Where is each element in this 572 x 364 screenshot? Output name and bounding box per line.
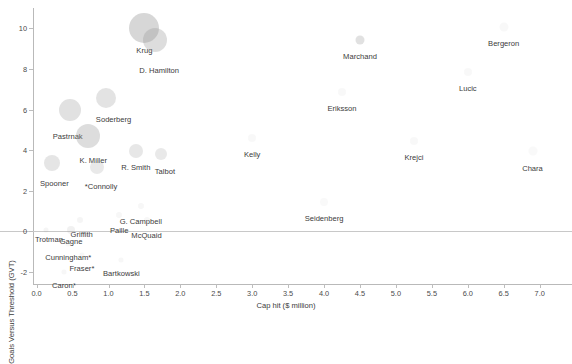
x-tick-mark — [360, 284, 361, 288]
data-point-label: McQuaid — [131, 231, 161, 240]
x-tick-label: 6.0 — [463, 289, 473, 298]
x-tick-label: 6.5 — [499, 289, 509, 298]
data-point-bubble — [410, 137, 418, 145]
data-point-label: Gagne — [60, 237, 83, 246]
x-tick-mark — [504, 284, 505, 288]
y-tick-label: -2 — [20, 267, 27, 276]
x-tick-label: 0.0 — [31, 289, 41, 298]
plot-frame-bottom — [33, 284, 572, 285]
y-tick-label: 8 — [23, 64, 27, 73]
data-point-label: Marchand — [343, 52, 377, 61]
data-point-label: Bartkowski — [103, 269, 140, 278]
data-point-label: Eriksson — [327, 104, 356, 113]
x-tick-mark — [468, 284, 469, 288]
data-point-bubble — [59, 99, 81, 121]
data-point-label: Seidenberg — [305, 214, 344, 223]
data-point-bubble — [77, 217, 83, 223]
data-point-label: Krejci — [404, 153, 423, 162]
data-point-label: Cunningham* — [45, 253, 91, 262]
y-tick-mark — [29, 110, 33, 111]
data-point-label: Spooner — [40, 179, 69, 188]
data-point-bubble — [248, 134, 256, 142]
x-tick-mark — [252, 284, 253, 288]
x-tick-mark — [37, 284, 38, 288]
plot-frame-left — [33, 8, 34, 284]
x-tick-label: 1.5 — [139, 289, 149, 298]
x-tick-label: 2.5 — [211, 289, 221, 298]
y-tick-label: 6 — [23, 105, 27, 114]
x-tick-label: 1.0 — [103, 289, 113, 298]
data-point-label: Krug — [136, 46, 152, 55]
data-point-label: Trotman — [35, 235, 63, 244]
x-tick-mark — [144, 284, 145, 288]
data-point-bubble — [155, 148, 167, 160]
data-point-label: Bergeron — [488, 39, 519, 48]
data-point-bubble — [499, 23, 508, 32]
data-point-bubble — [464, 68, 472, 76]
x-tick-mark — [109, 284, 110, 288]
data-point-bubble — [129, 13, 159, 43]
x-tick-label: 7.0 — [535, 289, 545, 298]
x-tick-mark — [540, 284, 541, 288]
x-tick-label: 4.0 — [319, 289, 329, 298]
y-tick-mark — [29, 231, 33, 232]
y-tick-mark — [29, 28, 33, 29]
y-tick-mark — [29, 69, 33, 70]
data-point-label: Pastrnak — [53, 132, 83, 141]
x-tick-label: 0.5 — [67, 289, 77, 298]
data-point-label: Talbot — [155, 167, 175, 176]
data-point-label: G. Campbell — [120, 217, 162, 226]
data-point-bubble — [138, 203, 144, 209]
x-tick-label: 3.0 — [247, 289, 257, 298]
data-point-bubble — [96, 88, 116, 108]
y-tick-mark — [29, 272, 33, 273]
x-tick-label: 4.5 — [355, 289, 365, 298]
y-tick-mark — [29, 191, 33, 192]
x-tick-label: 5.5 — [427, 289, 437, 298]
y-tick-label: 0 — [23, 227, 27, 236]
data-point-label: Paille — [110, 226, 129, 235]
x-tick-mark — [180, 284, 181, 288]
x-tick-label: 2.0 — [175, 289, 185, 298]
x-tick-mark — [288, 284, 289, 288]
data-point-label: Kelly — [244, 150, 260, 159]
y-tick-label: 2 — [23, 186, 27, 195]
data-point-bubble — [356, 35, 365, 44]
data-point-bubble — [61, 269, 66, 274]
data-point-bubble — [528, 147, 537, 156]
data-point-label: K. Miller — [80, 156, 107, 165]
y-tick-label: 4 — [23, 146, 27, 155]
x-tick-mark — [324, 284, 325, 288]
data-point-label: Chara — [522, 164, 543, 173]
x-tick-mark — [396, 284, 397, 288]
data-point-label: Soderberg — [96, 115, 131, 124]
data-point-label: Fraser* — [69, 264, 94, 273]
x-tick-mark — [73, 284, 74, 288]
x-tick-mark — [216, 284, 217, 288]
data-point-label: Lucic — [459, 84, 477, 93]
data-point-label: *Connolly — [85, 182, 118, 191]
x-axis-title: Cap hit ($ million) — [256, 301, 315, 310]
x-tick-label: 3.5 — [283, 289, 293, 298]
data-point-label: D. Hamilton — [139, 66, 179, 75]
y-tick-mark — [29, 150, 33, 151]
data-point-label: R. Smith — [121, 163, 150, 172]
x-tick-mark — [432, 284, 433, 288]
data-point-bubble — [119, 257, 124, 262]
data-point-bubble — [129, 144, 143, 158]
y-tick-label: 10 — [19, 24, 27, 33]
x-tick-label: 5.0 — [391, 289, 401, 298]
y-axis-title: Goals Versus Threshold (GVT) — [7, 260, 16, 364]
data-point-bubble — [44, 155, 60, 171]
data-point-bubble — [320, 198, 328, 206]
data-point-bubble — [338, 88, 346, 96]
